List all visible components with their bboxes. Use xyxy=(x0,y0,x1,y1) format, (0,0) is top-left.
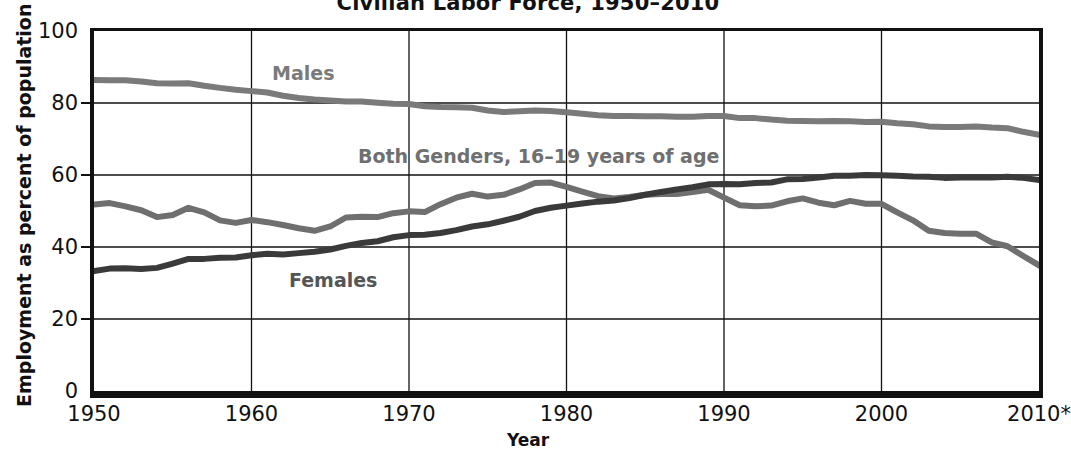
y-tick-label: 100 xyxy=(22,19,78,43)
y-tick-mark xyxy=(81,102,90,104)
series-label-males: Males xyxy=(272,62,334,84)
x-tick-label: 1960 xyxy=(225,402,278,426)
y-tick-label: 60 xyxy=(22,163,78,187)
series-canvas xyxy=(94,31,1039,391)
plot-inner xyxy=(94,31,1039,391)
y-tick-mark xyxy=(81,174,90,176)
x-tick-label: 1980 xyxy=(540,402,593,426)
x-tick-label: 1970 xyxy=(382,402,435,426)
y-tick-label: 80 xyxy=(22,91,78,115)
x-tick-label: 2010* xyxy=(1007,402,1071,426)
x-tick-label: 1990 xyxy=(697,402,750,426)
y-tick-label: 40 xyxy=(22,235,78,259)
y-tick-mark xyxy=(81,246,90,248)
y-tick-label: 0 xyxy=(22,379,78,403)
x-tick-label: 2000 xyxy=(855,402,908,426)
x-tick-label: 1950 xyxy=(67,402,120,426)
plot-area xyxy=(90,28,1043,398)
series-label-females: Females xyxy=(289,269,377,291)
y-tick-label: 20 xyxy=(22,307,78,331)
y-tick-mark xyxy=(81,318,90,320)
x-axis-title: Year xyxy=(0,430,1056,450)
series-label-both-genders: Both Genders, 16–19 years of age xyxy=(358,145,719,167)
